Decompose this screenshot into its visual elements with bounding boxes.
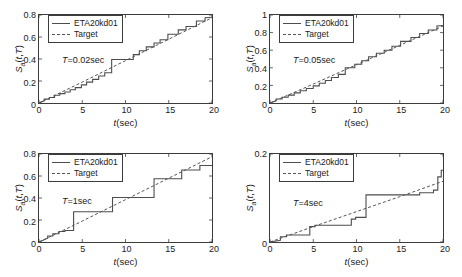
period-annotation: T=0.02sec xyxy=(62,56,104,65)
y-axis-tick-label: 0 xyxy=(31,240,36,249)
x-axis-tick-label: 20 xyxy=(440,106,450,115)
legend-item: Target xyxy=(283,168,349,179)
legend-item: Target xyxy=(52,168,118,179)
x-axis-tick-label: 5 xyxy=(80,106,85,115)
legend-swatch-target-icon xyxy=(52,34,70,36)
y-axis-label: Sa(t,T) xyxy=(14,184,26,212)
legend-label: ETA20kd01 xyxy=(305,158,349,167)
y-axis-tick-label: 0.8 xyxy=(23,150,36,159)
y-axis-tick-label: 0 xyxy=(262,101,267,110)
legend-swatch-measured-icon xyxy=(52,162,70,164)
x-axis-tick-label: 15 xyxy=(165,245,175,254)
figure-container: 00.20.40.60.805101520Sa(t,T)t(sec)T=0.02… xyxy=(0,0,462,277)
legend-item: ETA20kd01 xyxy=(52,157,118,168)
x-axis-tick-label: 0 xyxy=(267,106,272,115)
legend-item: ETA20kd01 xyxy=(52,18,118,29)
y-axis-tick-label: 0 xyxy=(31,101,36,110)
legend-swatch-target-icon xyxy=(283,173,301,175)
subplot-panel: 00.205101520Sa(t,T)t(sec)T=4secETA20kd01… xyxy=(231,139,462,277)
x-axis-tick-label: 10 xyxy=(352,245,362,254)
y-axis-label: Sa(t,T) xyxy=(14,45,26,73)
series-line-target xyxy=(270,181,443,242)
subplot-panel: 00.20.40.60.805101520Sa(t,T)t(sec)T=1sec… xyxy=(0,139,231,277)
legend-swatch-target-icon xyxy=(52,173,70,175)
x-axis-tick-label: 5 xyxy=(311,245,316,254)
legend-label: Target xyxy=(305,30,329,39)
x-axis-tick-label: 0 xyxy=(36,106,41,115)
legend-item: Target xyxy=(283,29,349,40)
legend-swatch-measured-icon xyxy=(283,162,301,164)
x-axis-tick-label: 20 xyxy=(440,245,450,254)
y-axis-tick-label: 1 xyxy=(262,11,267,20)
x-axis-tick-label: 20 xyxy=(209,245,219,254)
subplot-panel: 00.20.40.60.8105101520Sa(t,T)t(sec)T=0.0… xyxy=(231,0,462,138)
y-axis-tick-label: 0.8 xyxy=(254,29,267,38)
x-axis-tick-label: 15 xyxy=(396,245,406,254)
x-axis-tick-label: 10 xyxy=(121,245,131,254)
legend-label: ETA20kd01 xyxy=(74,19,118,28)
x-axis-tick-label: 15 xyxy=(396,106,406,115)
legend-label: ETA20kd01 xyxy=(305,19,349,28)
y-axis-tick-label: 0.8 xyxy=(23,11,36,20)
y-axis-tick-label: 0 xyxy=(262,240,267,249)
y-axis-label: Sa(t,T) xyxy=(245,184,257,212)
y-axis-tick-label: 0.2 xyxy=(254,83,267,92)
legend-swatch-target-icon xyxy=(283,34,301,36)
legend-label: Target xyxy=(74,169,98,178)
subplot-panel: 00.20.40.60.805101520Sa(t,T)t(sec)T=0.02… xyxy=(0,0,231,138)
period-annotation: T=4sec xyxy=(293,199,323,208)
x-axis-label: t(sec) xyxy=(38,118,213,128)
legend-label: Target xyxy=(305,169,329,178)
y-axis-tick-label: 0.2 xyxy=(254,150,267,159)
legend: ETA20kd01Target xyxy=(279,15,354,43)
y-axis-tick-label: 0.2 xyxy=(23,78,36,87)
legend: ETA20kd01Target xyxy=(279,154,354,182)
legend-swatch-measured-icon xyxy=(52,23,70,25)
legend-label: Target xyxy=(74,30,98,39)
period-annotation: T=1sec xyxy=(62,197,92,206)
x-axis-tick-label: 10 xyxy=(121,106,131,115)
legend-item: ETA20kd01 xyxy=(283,18,349,29)
legend: ETA20kd01Target xyxy=(48,154,123,182)
legend-label: ETA20kd01 xyxy=(74,158,118,167)
legend-swatch-measured-icon xyxy=(283,23,301,25)
x-axis-label: t(sec) xyxy=(269,257,444,267)
legend-item: ETA20kd01 xyxy=(283,157,349,168)
y-axis-tick-label: 0.6 xyxy=(23,172,36,181)
x-axis-tick-label: 15 xyxy=(165,106,175,115)
x-axis-label: t(sec) xyxy=(269,118,444,128)
x-axis-tick-label: 5 xyxy=(311,106,316,115)
x-axis-label: t(sec) xyxy=(38,257,213,267)
x-axis-tick-label: 0 xyxy=(267,245,272,254)
x-axis-tick-label: 20 xyxy=(209,106,219,115)
x-axis-tick-label: 10 xyxy=(352,106,362,115)
y-axis-label: Sa(t,T) xyxy=(245,45,257,73)
legend: ETA20kd01Target xyxy=(48,15,123,43)
y-axis-tick-label: 0.2 xyxy=(23,217,36,226)
legend-item: Target xyxy=(52,29,118,40)
x-axis-tick-label: 5 xyxy=(80,245,85,254)
x-axis-tick-label: 0 xyxy=(36,245,41,254)
y-axis-tick-label: 0.6 xyxy=(23,33,36,42)
period-annotation: T=0.05sec xyxy=(293,56,335,65)
